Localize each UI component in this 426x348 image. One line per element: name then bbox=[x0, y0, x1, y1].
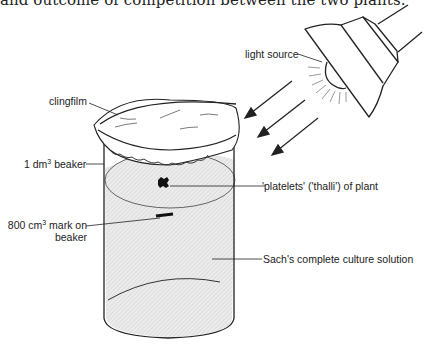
label-beaker: 1 dm3 beaker bbox=[24, 158, 86, 170]
label-beaker-suffix: beaker bbox=[51, 158, 86, 170]
experiment-diagram bbox=[0, 0, 426, 348]
label-mark-line2: beaker bbox=[7, 231, 87, 243]
label-mark-suffix: mark on bbox=[46, 219, 87, 231]
label-mark: 800 cm3 mark on beaker bbox=[7, 219, 87, 243]
label-clingfilm: clingfilm bbox=[49, 95, 87, 107]
clingfilm-cover bbox=[94, 99, 239, 165]
label-platelets: 'platelets' ('thalli') of plant bbox=[262, 180, 378, 192]
light-arrows bbox=[245, 81, 318, 155]
label-beaker-prefix: 1 dm bbox=[24, 158, 47, 170]
label-solution: Sach's complete culture solution bbox=[263, 253, 413, 265]
lamp-icon bbox=[305, 5, 422, 117]
label-mark-prefix: 800 cm bbox=[8, 219, 42, 231]
label-light-source: light source bbox=[245, 48, 299, 60]
beaker bbox=[104, 140, 235, 338]
